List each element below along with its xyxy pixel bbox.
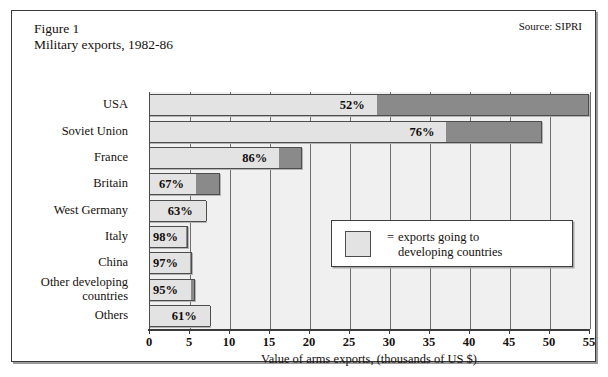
category-label-other-developing: Other developing countries — [0, 276, 128, 303]
tick-label-20: 20 — [303, 335, 316, 350]
tick-mark-0 — [149, 329, 150, 334]
tick-label-15: 15 — [263, 335, 276, 350]
tick-mark-45 — [509, 329, 510, 334]
tick-mark-50 — [549, 329, 550, 334]
tick-mark-30 — [389, 329, 390, 334]
tick-label-0: 0 — [146, 335, 152, 350]
bar-value-label: 52% — [340, 98, 365, 113]
bar-segment-developing — [150, 122, 448, 142]
bar-value-label: 98% — [153, 229, 178, 244]
tick-label-25: 25 — [343, 335, 356, 350]
figure-frame: Figure 1 Military exports, 1982-86 Sourc… — [11, 10, 596, 362]
tick-mark-25 — [349, 329, 350, 334]
bar-soviet-union — [149, 121, 542, 143]
category-label-others: Others — [0, 309, 128, 323]
bar-usa — [149, 94, 589, 116]
bar-segment-other — [279, 148, 301, 168]
category-label-china: China — [0, 256, 128, 270]
tick-label-55: 55 — [583, 335, 596, 350]
bar-value-label: 97% — [153, 256, 178, 271]
gridline-55 — [590, 92, 591, 329]
tick-mark-40 — [469, 329, 470, 334]
bar-segment-other — [191, 280, 193, 300]
bar-value-label: 67% — [159, 177, 184, 192]
legend-equals-sign: = — [387, 230, 394, 245]
category-label-britain: Britain — [0, 177, 128, 191]
bar-segment-other — [190, 253, 192, 273]
tick-mark-10 — [229, 329, 230, 334]
source-note: Source: SIPRI — [519, 20, 582, 32]
tick-mark-5 — [189, 329, 190, 334]
tick-mark-15 — [269, 329, 270, 334]
bar-segment-other — [186, 227, 187, 247]
category-label-france: France — [0, 151, 128, 165]
bar-france — [149, 147, 302, 169]
x-axis-line — [148, 329, 590, 331]
tick-label-45: 45 — [503, 335, 516, 350]
bar-value-label: 86% — [242, 150, 267, 165]
bar-value-label: 95% — [153, 282, 178, 297]
tick-label-35: 35 — [423, 335, 436, 350]
tick-mark-35 — [429, 329, 430, 334]
bar-segment-other — [196, 174, 219, 194]
category-label-soviet-union: Soviet Union — [0, 125, 128, 139]
x-axis-title: Value of arms exports, (thousands of US … — [149, 352, 589, 367]
tick-label-5: 5 — [186, 335, 192, 350]
tick-mark-55 — [589, 329, 590, 334]
bar-value-label: 61% — [172, 308, 197, 323]
bar-segment-other — [377, 95, 588, 115]
category-label-italy: Italy — [0, 230, 128, 244]
category-label-west-germany: West Germany — [0, 204, 128, 218]
legend-swatch-developing — [345, 231, 371, 257]
tick-label-50: 50 — [543, 335, 556, 350]
figure-title: Military exports, 1982-86 — [34, 37, 173, 53]
tick-mark-20 — [309, 329, 310, 334]
tick-label-10: 10 — [223, 335, 236, 350]
tick-label-30: 30 — [383, 335, 396, 350]
tick-label-40: 40 — [463, 335, 476, 350]
bar-segment-other — [446, 122, 540, 142]
legend-label: exports going to developing countries — [398, 230, 503, 259]
legend-box: = exports going to developing countries — [331, 220, 573, 267]
bar-value-label: 76% — [409, 124, 434, 139]
bar-value-label: 63% — [168, 203, 193, 218]
gridline-50 — [550, 92, 551, 329]
category-label-usa: USA — [0, 98, 128, 112]
figure-number: Figure 1 — [34, 21, 79, 37]
figure-page: Figure 1 Military exports, 1982-86 Sourc… — [0, 0, 608, 377]
